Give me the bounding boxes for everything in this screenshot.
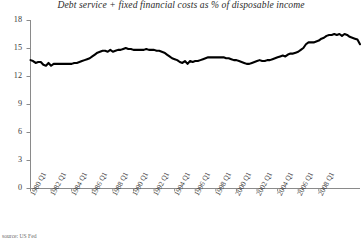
y-tick-label: 0: [4, 184, 22, 192]
plot-area: [0, 0, 362, 243]
y-tick-label: 9: [4, 100, 22, 108]
y-tick-label: 12: [4, 72, 22, 80]
y-tick-label: 6: [4, 128, 22, 136]
y-tick-label: 15: [4, 44, 22, 52]
y-tick-label: 3: [4, 156, 22, 164]
axes: [31, 20, 361, 189]
source-note: source: US Fed: [2, 233, 37, 239]
data-series-line: [31, 34, 361, 66]
y-tick-label: 18: [4, 16, 22, 24]
chart-figure: Debt service + fixed financial costs as …: [0, 0, 362, 243]
y-tick-marks: [27, 21, 31, 189]
